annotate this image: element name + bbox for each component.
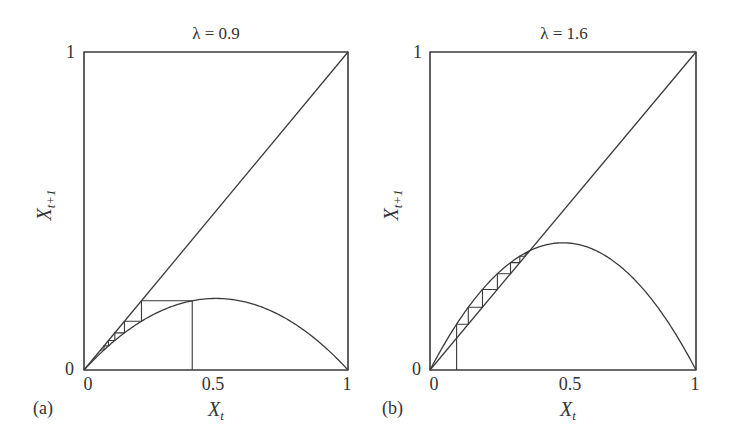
panel-b-tag: (b) [382,398,403,419]
panel-a-y-axis-label: Xt+1 [33,189,59,220]
x-label-main: X [208,398,220,420]
y-label-subscript: t+1 [390,189,405,208]
y-label-main: X [33,208,55,220]
panel-b-ytick-1: 1 [413,42,422,63]
panel-a-tag: (a) [33,398,53,419]
panel-b-xtick-1: 1 [691,374,700,395]
panel-b-plot [430,52,696,370]
map-curve [84,298,348,370]
panel-a-xtick-05: 0.5 [202,374,225,395]
panel-a-xtick-1: 1 [343,374,352,395]
panel-a-ytick-0: 0 [65,359,74,380]
panel-a-plot [84,52,348,370]
panel-a-x-axis-label: Xt [208,398,224,424]
panel-a-title: λ = 0.9 [192,24,240,44]
cobweb-path [457,251,530,370]
panel-a-ytick-1: 1 [66,42,75,63]
panel-b-title: λ = 1.6 [540,24,588,44]
x-label-subscript: t [572,408,576,423]
panel-b-x-axis-label: Xt [560,398,576,424]
panel-b-xtick-05: 0.5 [559,374,582,395]
cobweb-path [101,301,193,370]
panel-b-ytick-0: 0 [412,359,421,380]
map-curve [430,243,696,370]
plots-canvas [0,0,733,447]
identity-line [84,52,348,370]
panel-b-y-axis-label: Xt+1 [380,189,406,220]
panel-a-xtick-0: 0 [84,374,93,395]
y-label-subscript: t+1 [43,189,58,208]
identity-line [430,52,696,370]
x-label-main: X [560,398,572,420]
figure: λ = 0.9 1 0 0 0.5 1 Xt Xt+1 (a) λ = 1.6 … [0,0,733,447]
y-label-main: X [380,208,402,220]
x-label-subscript: t [220,408,224,423]
panel-b-xtick-0: 0 [430,374,439,395]
